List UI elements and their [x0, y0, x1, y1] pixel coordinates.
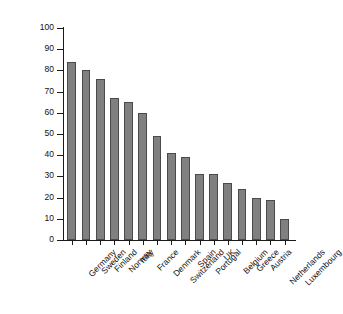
bar — [153, 136, 162, 240]
bars-layer — [64, 28, 296, 240]
x-axis-tick-mark — [285, 241, 286, 245]
bar — [82, 70, 91, 240]
y-axis-tick-mark — [57, 240, 63, 241]
y-axis-tick-mark — [57, 113, 63, 114]
y-axis-tick-label: 10 — [45, 213, 54, 223]
y-axis-tick-mark — [57, 219, 63, 220]
bar — [195, 174, 204, 240]
x-axis-tick-mark — [228, 241, 229, 245]
bar — [238, 189, 247, 240]
x-axis-tick-mark — [86, 241, 87, 245]
bar — [266, 200, 275, 240]
bar — [223, 183, 232, 240]
x-axis-tick-mark — [256, 241, 257, 245]
y-axis-tick-label: 90 — [45, 43, 54, 53]
y-axis-tick-mark — [57, 70, 63, 71]
y-axis-tick-label: 80 — [45, 64, 54, 74]
bar — [209, 174, 218, 240]
bar — [138, 113, 147, 240]
x-axis-tick-mark — [129, 241, 130, 245]
x-axis-tick-mark — [157, 241, 158, 245]
y-axis-tick-mark — [57, 155, 63, 156]
x-axis-tick-mark — [214, 241, 215, 245]
bar — [67, 62, 76, 240]
y-axis-tick-label: 20 — [45, 192, 54, 202]
bar — [280, 219, 289, 240]
bar — [181, 157, 190, 240]
x-axis-tick-mark — [200, 241, 201, 245]
x-axis-tick-mark — [270, 241, 271, 245]
x-axis-tick-mark — [100, 241, 101, 245]
bar — [110, 98, 119, 240]
y-axis-tick-mark — [57, 49, 63, 50]
y-axis-tick-mark — [57, 134, 63, 135]
y-axis-tick-label: 0 — [49, 234, 54, 244]
y-axis-tick-label: 40 — [45, 149, 54, 159]
x-axis-tick-mark — [72, 241, 73, 245]
x-axis-tick-mark — [171, 241, 172, 245]
x-axis-tick-mark — [143, 241, 144, 245]
y-axis-tick-mark — [57, 198, 63, 199]
y-axis-tick-label: 30 — [45, 170, 54, 180]
y-axis-tick-mark — [57, 176, 63, 177]
y-axis-tick-label: 50 — [45, 128, 54, 138]
bar — [167, 153, 176, 240]
y-axis-tick-label: 60 — [45, 107, 54, 117]
y-axis-tick-mark — [57, 92, 63, 93]
bar — [124, 102, 133, 240]
x-axis-line — [63, 240, 296, 241]
y-axis-tick-label: 100 — [40, 22, 54, 32]
bar — [96, 79, 105, 240]
bar — [252, 198, 261, 240]
x-axis-tick-mark — [114, 241, 115, 245]
x-axis-tick-mark — [185, 241, 186, 245]
y-axis-tick-label: 70 — [45, 86, 54, 96]
x-axis-tick-mark — [242, 241, 243, 245]
y-axis-tick-mark — [57, 28, 63, 29]
